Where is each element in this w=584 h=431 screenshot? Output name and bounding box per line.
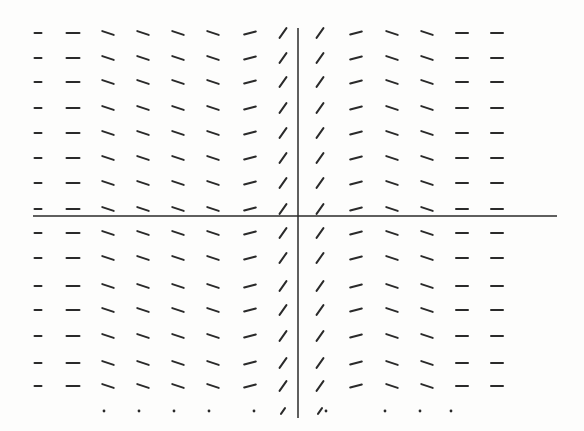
slope-segment	[421, 334, 432, 338]
slope-segment	[280, 53, 287, 63]
slope-segment	[172, 181, 183, 185]
slope-segment	[172, 334, 183, 338]
slope-segment	[281, 408, 285, 414]
slope-segment	[207, 384, 218, 388]
slope-segment	[172, 31, 183, 35]
slope-segment	[386, 80, 397, 84]
slope-segment	[137, 361, 148, 365]
slope-segment	[244, 56, 256, 59]
slope-segment	[207, 334, 218, 338]
slope-segment	[137, 231, 148, 235]
slope-segment	[386, 156, 397, 160]
partial-dot	[103, 410, 106, 413]
slope-segment	[102, 361, 113, 365]
slope-segment	[137, 384, 148, 388]
slope-segment	[421, 56, 432, 60]
slope-segment	[317, 178, 324, 188]
slope-segment	[102, 80, 113, 84]
slope-segment	[421, 361, 432, 365]
slope-segment	[244, 156, 256, 159]
slope-segment	[244, 361, 256, 364]
slope-segment	[172, 361, 183, 365]
slope-segment	[172, 308, 183, 312]
slope-segment	[172, 384, 183, 388]
slope-segment	[102, 231, 113, 235]
slope-segment	[421, 207, 432, 211]
slope-segment	[137, 131, 148, 135]
slope-segment	[317, 28, 324, 38]
slope-segment	[102, 31, 113, 35]
slope-segment	[102, 384, 113, 388]
slope-segment	[172, 131, 183, 135]
slope-segment	[350, 131, 362, 134]
slope-segment	[102, 334, 113, 338]
slope-segment	[280, 153, 287, 163]
slope-segment	[244, 334, 256, 337]
slope-segment	[317, 281, 324, 291]
slope-segment	[207, 131, 218, 135]
slope-segment	[421, 156, 432, 160]
slope-segment	[280, 228, 287, 238]
slope-segment	[102, 56, 113, 60]
slope-segment	[244, 31, 256, 34]
slope-segment	[350, 31, 362, 34]
partial-dot	[138, 410, 141, 413]
slope-segment	[207, 156, 218, 160]
slope-segment	[244, 181, 256, 184]
slope-segment	[207, 231, 218, 235]
slope-segment	[280, 103, 287, 113]
slope-segment	[386, 131, 397, 135]
slope-segment	[172, 156, 183, 160]
slope-segment	[317, 53, 324, 63]
slope-segment	[421, 384, 432, 388]
slope-segments	[35, 28, 504, 414]
slope-segment	[317, 77, 324, 87]
slope-segment	[137, 284, 148, 288]
slope-segment	[350, 256, 362, 259]
slope-segment	[421, 256, 432, 260]
slope-segment	[280, 381, 287, 391]
slope-segment	[137, 156, 148, 160]
slope-segment	[386, 361, 397, 365]
slope-segment	[350, 181, 362, 184]
slope-segment	[350, 284, 362, 287]
slope-segment	[102, 256, 113, 260]
slope-segment	[280, 178, 287, 188]
partial-dot	[450, 410, 453, 413]
slope-segment	[172, 207, 183, 211]
slope-segment	[386, 181, 397, 185]
slope-segment	[386, 308, 397, 312]
slope-segment	[280, 128, 287, 138]
partial-dot	[208, 410, 211, 413]
slope-segment	[280, 305, 287, 315]
slope-segment	[386, 106, 397, 110]
slope-segment	[244, 384, 256, 387]
slope-segment	[137, 181, 148, 185]
partial-dot	[384, 410, 387, 413]
slope-segment	[244, 256, 256, 259]
slope-segment	[280, 77, 287, 87]
slope-segment	[207, 256, 218, 260]
slope-segment	[280, 28, 287, 38]
slope-segment	[244, 231, 256, 234]
partial-dot	[173, 410, 176, 413]
slope-segment	[421, 231, 432, 235]
slope-segment	[137, 106, 148, 110]
slope-segment	[421, 308, 432, 312]
slope-segment	[172, 284, 183, 288]
slope-segment	[172, 106, 183, 110]
slope-segment	[207, 308, 218, 312]
slope-field-diagram	[0, 0, 584, 431]
slope-segment	[244, 106, 256, 109]
partial-dot	[419, 410, 422, 413]
slope-segment	[317, 128, 324, 138]
slope-segment	[244, 284, 256, 287]
slope-segment	[386, 384, 397, 388]
slope-segment	[350, 156, 362, 159]
slope-segment	[207, 106, 218, 110]
slope-segment	[350, 231, 362, 234]
slope-segment	[421, 106, 432, 110]
slope-segment	[172, 56, 183, 60]
slope-segment	[317, 305, 324, 315]
slope-segment	[280, 331, 287, 341]
